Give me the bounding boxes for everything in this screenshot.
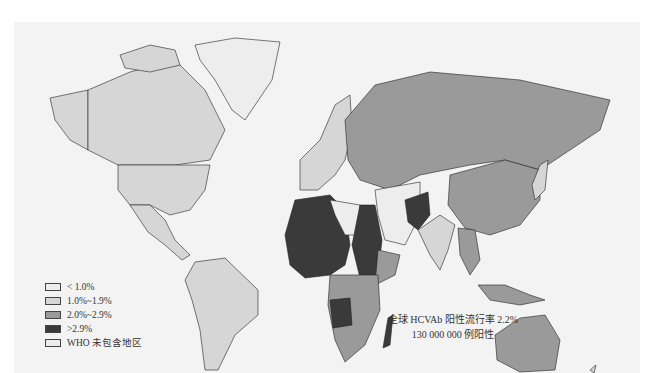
legend-label: 1.0%~1.9% — [67, 294, 112, 308]
region-china — [448, 160, 540, 235]
legend-label: < 1.0% — [67, 280, 95, 294]
legend-item: 2.0%~2.9% — [45, 308, 142, 322]
legend-swatch — [45, 339, 61, 347]
map-subtitle: 130 000 000 例阳性 — [368, 327, 538, 342]
legend-item: WHO 未包含地区 — [45, 336, 142, 350]
region-canada — [88, 60, 225, 165]
legend-label: >2.9% — [67, 322, 92, 336]
region-southeast-asia — [458, 228, 480, 275]
legend-swatch — [45, 297, 61, 305]
region-horn-africa — [375, 250, 400, 285]
legend-label: 2.0%~2.9% — [67, 308, 112, 322]
region-indonesia — [478, 285, 545, 305]
region-europe-west — [300, 95, 352, 190]
region-mexico — [130, 205, 190, 260]
legend-item: >2.9% — [45, 322, 142, 336]
region-angola — [330, 298, 352, 328]
legend-swatch — [45, 311, 61, 319]
map-title: 全球 HCVAb 阳性流行率 2.2% — [368, 312, 538, 327]
region-alaska — [50, 90, 88, 150]
legend-item: < 1.0% — [45, 280, 142, 294]
map-caption: 全球 HCVAb 阳性流行率 2.2% 130 000 000 例阳性 — [368, 312, 538, 342]
region-new-zealand — [590, 365, 596, 373]
legend-item: 1.0%~1.9% — [45, 294, 142, 308]
legend-swatch — [45, 283, 61, 291]
region-south-america — [185, 258, 258, 370]
legend-swatch — [45, 325, 61, 333]
legend-label: WHO 未包含地区 — [67, 336, 142, 350]
legend: < 1.0% 1.0%~1.9% 2.0%~2.9% >2.9% WHO 未包含… — [45, 280, 142, 350]
